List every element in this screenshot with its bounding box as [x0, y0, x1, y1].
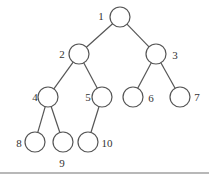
edge-2-5 — [84, 63, 98, 88]
tree-node-4 — [38, 87, 58, 107]
node-label-8: 8 — [16, 137, 22, 149]
edge-1-2 — [86, 24, 112, 48]
node-label-4: 4 — [32, 91, 38, 103]
edge-5-10 — [91, 107, 99, 133]
tree-diagram: 12345678910 — [0, 0, 209, 175]
tree-node-5 — [92, 87, 112, 107]
tree-node-2 — [69, 44, 89, 64]
tree-node-10 — [78, 132, 98, 152]
edge-2-4 — [54, 62, 73, 89]
node-label-9: 9 — [59, 157, 65, 169]
tree-node-9 — [53, 132, 73, 152]
tree-node-3 — [146, 44, 166, 64]
edge-4-9 — [51, 106, 60, 132]
node-label-3: 3 — [172, 49, 178, 61]
edge-4-8 — [38, 107, 45, 133]
node-label-10: 10 — [102, 137, 114, 149]
edge-1-3 — [127, 24, 149, 47]
tree-node-6 — [123, 87, 143, 107]
edges-layer — [38, 24, 175, 133]
node-label-6: 6 — [148, 92, 154, 104]
node-label-7: 7 — [194, 91, 200, 103]
tree-node-8 — [25, 132, 45, 152]
tree-node-1 — [110, 7, 130, 27]
node-label-2: 2 — [59, 48, 65, 60]
edge-3-7 — [161, 63, 175, 89]
node-label-1: 1 — [98, 10, 104, 22]
bottom-divider — [0, 172, 209, 174]
tree-node-7 — [170, 87, 190, 107]
edge-3-6 — [138, 63, 152, 88]
node-label-5: 5 — [85, 91, 91, 103]
